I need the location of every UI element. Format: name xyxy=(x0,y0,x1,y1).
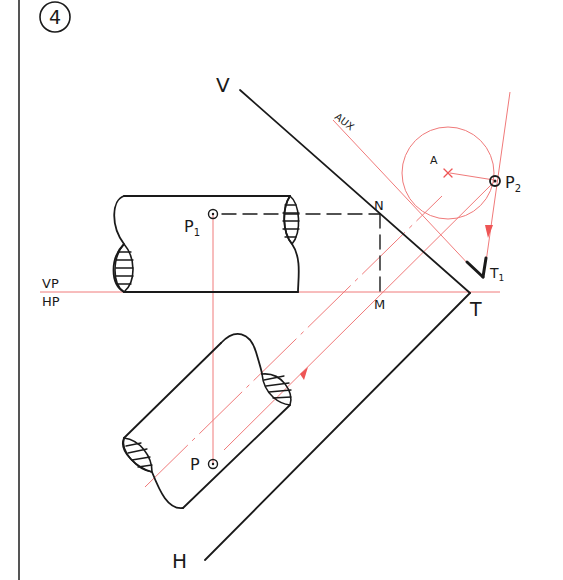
label-m: M xyxy=(374,297,385,312)
horizontal-trace-h xyxy=(205,293,470,560)
aux-plane-line xyxy=(333,120,472,268)
pipe-front-view xyxy=(114,196,300,292)
label-aux-plane: AUX xyxy=(333,111,356,133)
label-trace-h: H xyxy=(172,549,187,573)
label-trace-v: V xyxy=(216,73,230,97)
pipe-axis-centerline xyxy=(145,196,442,487)
label-p1: P1 xyxy=(184,217,200,238)
label-t1: T1 xyxy=(489,265,504,283)
label-axis-a: A xyxy=(430,154,438,167)
pipe-top-view xyxy=(123,334,291,508)
label-t: T xyxy=(469,298,482,320)
label-p2: P2 xyxy=(505,173,521,194)
descriptive-geometry-drawing: 4 xyxy=(0,0,563,580)
label-n: N xyxy=(374,198,384,213)
figure-number-badge: 4 xyxy=(40,2,70,32)
radius-a-p2 xyxy=(450,173,494,180)
label-vp: VP xyxy=(42,276,59,291)
label-hp: HP xyxy=(42,294,60,309)
point-p2-marker xyxy=(490,176,500,186)
figure-number: 4 xyxy=(49,6,61,28)
vertical-trace-v xyxy=(240,90,470,293)
label-p: P xyxy=(190,455,200,474)
line-p-to-p2 xyxy=(224,182,494,450)
arrow-down-icon xyxy=(485,225,493,238)
